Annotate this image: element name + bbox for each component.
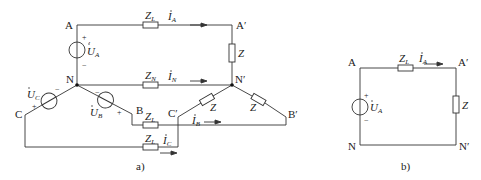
b-label-ZL: ZL [399,52,409,66]
label-ZL-C: ZL [145,132,155,146]
circuit-diagram: A A′ N N′ C B C′ B′ + − UA · UC − + UB −… [0,0,481,180]
b-node-label-Nprime: N′ [459,140,469,152]
source-UB-minus: − [95,88,100,97]
node-label-B: B [136,104,143,116]
b-node-label-A: A [348,56,356,68]
b-label-IA: IA [418,52,428,66]
node-label-Nprime: N′ [235,73,245,85]
source-UA-label: UA [87,45,100,59]
label-ZL-B: ZL [145,110,155,124]
node-label-A: A [65,19,73,31]
label-IN: IN [167,70,177,84]
source-UB-plus: + [117,108,122,117]
b-source-plus: + [364,91,369,100]
label-Z-C: Z [210,101,217,113]
label-IA: IA [167,10,177,24]
label-Z-A: Z [238,47,245,59]
source-UC-minus: − [55,85,60,94]
figure-a-caption: a) [136,160,145,173]
b-node-label-Aprime: A′ [458,56,468,68]
impedance-Z-A [229,44,235,62]
label-IB: IB [191,114,201,128]
node-Nprime-dot [230,83,234,87]
source-UC-plus: + [32,102,37,111]
b-label-Z: Z [462,99,469,111]
b-node-label-N: N [348,140,356,152]
node-label-Aprime: A′ [236,19,246,31]
source-UB-label: UB [90,106,103,120]
source-UA-plus: + [82,33,87,42]
label-Z-B: Z [250,101,257,113]
source-UC-label: UC [27,88,40,102]
node-label-Cprime: C′ [168,107,178,119]
label-ZL-A: ZL [145,9,155,23]
node-label-N: N [66,73,74,85]
phasor-dot: · [88,37,91,47]
b-source-minus: − [364,116,369,125]
impedance-Z-b [453,96,459,113]
source-UA-minus: − [82,61,87,70]
node-label-C: C [15,108,22,120]
node-label-Bprime: B′ [288,108,298,120]
label-ZN: ZN [145,69,156,83]
b-source-label: UA [370,101,383,115]
node-N-dot [75,83,79,87]
label-IC: IC [162,134,172,148]
figure-b-caption: b) [401,160,411,173]
